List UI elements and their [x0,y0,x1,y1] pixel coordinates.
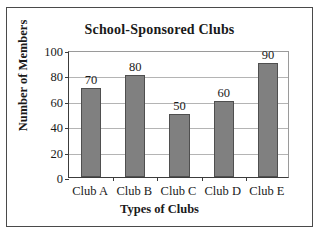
bar-value-label: 50 [173,99,186,114]
y-tick-mark [65,77,69,78]
y-tick-mark [65,103,69,104]
x-tick-mark [202,177,203,181]
x-category-label: Club A [72,184,108,199]
y-tick-label: 60 [51,95,64,110]
bar [214,101,234,177]
y-tick-mark [65,179,69,180]
x-tick-mark [157,177,158,181]
y-tick-label: 100 [44,45,63,60]
bar-value-label: 60 [217,86,230,101]
chart-frame: School-Sponsored Clubs Number of Members… [6,7,313,227]
y-tick-mark [65,128,69,129]
x-category-label: Club E [249,184,284,199]
bar [169,114,189,178]
bar-value-label: 70 [85,73,98,88]
y-tick-label: 40 [51,121,64,136]
x-tick-mark [113,177,114,181]
bar-value-label: 90 [262,48,275,63]
x-category-label: Club C [161,184,197,199]
y-tick-label: 0 [57,172,63,187]
bar [258,63,278,177]
bar [81,88,101,177]
x-category-label: Club B [116,184,152,199]
x-tick-mark [246,177,247,181]
y-tick-mark [65,52,69,53]
plot-area: 020406080100 7080506090 [68,51,289,178]
gridline [69,77,288,78]
x-category-label: Club D [204,184,240,199]
bar-value-label: 80 [129,60,142,75]
y-tick-label: 20 [51,146,64,161]
bar [125,75,145,177]
x-axis-title: Types of Clubs [7,202,312,217]
chart-title: School-Sponsored Clubs [7,22,312,38]
y-tick-label: 80 [51,70,64,85]
y-tick-mark [65,154,69,155]
y-axis-title: Number of Members [16,16,31,136]
